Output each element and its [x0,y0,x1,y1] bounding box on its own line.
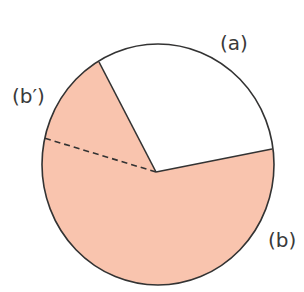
pie-diagram [0,0,304,292]
label-a: (a) [220,33,248,53]
label-b: (b) [268,230,296,250]
label-b-prime: (b′) [12,86,45,106]
